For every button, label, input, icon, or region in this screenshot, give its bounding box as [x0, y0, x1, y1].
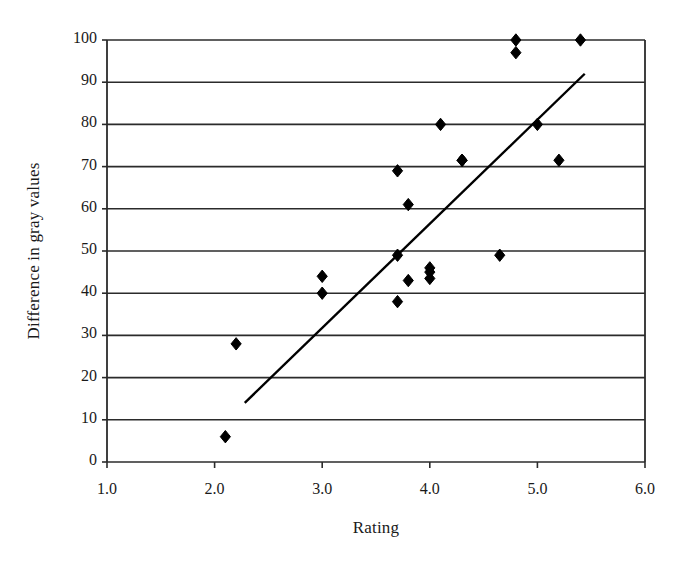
- data-points: [220, 34, 585, 443]
- y-tick-label: 60: [49, 198, 97, 216]
- x-tick-label: 6.0: [615, 480, 675, 498]
- y-tick-label: 40: [49, 282, 97, 300]
- x-axis-ticks: [107, 462, 645, 468]
- data-point: [532, 118, 542, 130]
- data-point: [317, 287, 327, 299]
- x-tick-label: 5.0: [507, 480, 567, 498]
- data-point: [392, 295, 402, 307]
- gridlines: [107, 40, 645, 462]
- y-tick-label: 10: [49, 409, 97, 427]
- y-tick-label: 90: [49, 71, 97, 89]
- data-point: [317, 270, 327, 282]
- data-point: [403, 274, 413, 286]
- x-tick-label: 2.0: [185, 480, 245, 498]
- data-point: [220, 430, 230, 442]
- scatter-chart: Difference in gray values Rating 0102030…: [0, 0, 688, 561]
- data-point: [231, 338, 241, 350]
- x-tick-label: 1.0: [77, 480, 137, 498]
- y-tick-label: 100: [49, 29, 97, 47]
- data-point: [511, 34, 521, 46]
- data-point: [457, 154, 467, 166]
- y-tick-label: 20: [49, 367, 97, 385]
- y-tick-label: 0: [49, 451, 97, 469]
- x-axis-title: Rating: [353, 518, 400, 538]
- data-point: [575, 34, 585, 46]
- x-tick-label: 3.0: [292, 480, 352, 498]
- y-tick-label: 80: [49, 113, 97, 131]
- y-tick-label: 30: [49, 324, 97, 342]
- y-axis-title: Difference in gray values: [24, 163, 44, 340]
- data-point: [435, 118, 445, 130]
- x-tick-label: 4.0: [400, 480, 460, 498]
- data-point: [554, 154, 564, 166]
- plot-area: [0, 0, 688, 561]
- data-point: [511, 46, 521, 58]
- y-tick-label: 50: [49, 240, 97, 258]
- y-tick-label: 70: [49, 156, 97, 174]
